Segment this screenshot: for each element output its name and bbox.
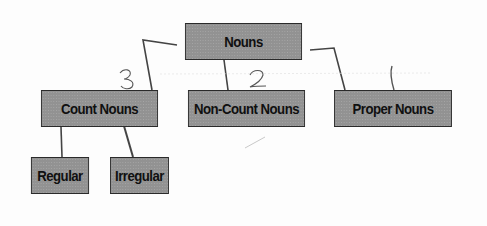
node-count-nouns: Count Nouns — [41, 90, 158, 127]
node-proper-nouns: Proper Nouns — [334, 90, 452, 127]
connector-count-regular — [61, 127, 62, 157]
node-nouns-label: Nouns — [224, 33, 262, 50]
stray-mark — [245, 137, 265, 148]
node-irregular: Irregular — [110, 157, 169, 194]
node-regular-label: Regular — [37, 167, 82, 184]
node-nouns: Nouns — [185, 23, 302, 60]
handwritten-number-2 — [250, 71, 266, 88]
connector-count-irregular — [124, 126, 133, 157]
node-proper-nouns-label: Proper Nouns — [353, 100, 434, 117]
node-regular: Regular — [31, 157, 89, 194]
node-irregular-label: Irregular — [115, 167, 164, 184]
node-count-nouns-label: Count Nouns — [61, 100, 138, 117]
node-non-count-nouns-label: Non-Count Nouns — [194, 100, 299, 117]
connector-nouns-proper — [310, 48, 345, 90]
node-non-count-nouns: Non-Count Nouns — [188, 90, 305, 127]
connector-nouns-noncount — [224, 60, 228, 90]
handwritten-number-3 — [120, 70, 133, 89]
connector-nouns-count — [143, 40, 177, 90]
handwritten-number-1 — [391, 66, 394, 90]
stray-dotted-line — [160, 73, 430, 74]
